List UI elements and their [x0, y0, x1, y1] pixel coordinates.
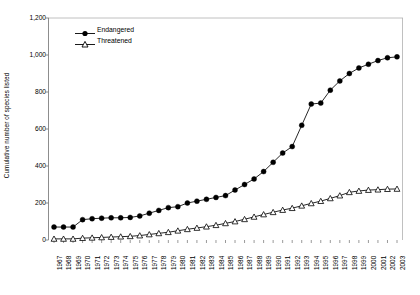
data-point-marker [175, 204, 180, 209]
chart-legend: Endangered Threatened [74, 25, 170, 47]
x-axis-tick-label: 1991 [285, 236, 291, 270]
data-point-marker [261, 169, 266, 174]
x-axis-tick-label: 1977 [152, 236, 158, 270]
data-point-marker [156, 208, 161, 213]
data-point-marker [375, 58, 380, 63]
x-axis-tick-label: 1992 [295, 236, 301, 270]
x-axis-tick-label: 1984 [219, 236, 225, 270]
data-point-marker [242, 182, 247, 187]
data-point-marker [166, 205, 171, 210]
x-axis-tick-label: 1981 [190, 236, 196, 270]
data-point-marker [90, 216, 95, 221]
plot-svg [48, 18, 403, 240]
x-axis-tick-label: 1968 [66, 236, 72, 270]
x-axis-tick-label: 2000 [371, 236, 377, 270]
x-axis-tick-label: 1982 [200, 236, 206, 270]
data-point-marker [137, 213, 142, 218]
data-point-marker [356, 65, 361, 70]
data-point-marker [395, 54, 400, 59]
x-axis-tick-label: 1971 [95, 236, 101, 270]
x-axis-tick-label: 1987 [247, 236, 253, 270]
x-axis-tick-label: 1990 [276, 236, 282, 270]
data-point-marker [366, 62, 371, 67]
data-point-marker [280, 151, 285, 156]
series-line [54, 57, 397, 227]
data-point-marker [271, 160, 276, 165]
legend-item-threatened: Threatened [74, 36, 170, 47]
x-axis-tick-label: 1996 [333, 236, 339, 270]
x-axis-tick-label: 1983 [209, 236, 215, 270]
series-endangered [52, 54, 400, 229]
x-axis-tick-label: 1999 [361, 236, 367, 270]
data-point-marker [347, 71, 352, 76]
data-point-marker [52, 225, 57, 230]
data-point-marker [109, 215, 114, 220]
data-point-marker [71, 225, 76, 230]
x-axis-tick-label: 1995 [323, 236, 329, 270]
x-axis-tick-label: 1975 [133, 236, 139, 270]
data-point-marker [99, 216, 104, 221]
x-axis-tick-label: 1988 [257, 236, 263, 270]
data-point-marker [318, 101, 323, 106]
x-axis-tick-labels: 1967196819691970197119721973197419751976… [48, 242, 403, 295]
legend-label-endangered: Endangered [96, 27, 134, 34]
x-axis-tick-label: 2002 [390, 236, 396, 270]
data-point-marker [204, 197, 209, 202]
x-axis-tick-label: 2003 [400, 236, 406, 270]
data-point-marker [213, 195, 218, 200]
data-point-marker [118, 215, 123, 220]
y-axis-tick-labels: 02004006008001,0001,200 [0, 0, 46, 295]
y-axis-tick-label: 600 [4, 126, 46, 133]
x-axis-tick-label: 1979 [171, 236, 177, 270]
x-axis-tick-label: 1980 [180, 236, 186, 270]
x-axis-tick-label: 1974 [123, 236, 129, 270]
data-point-marker [299, 123, 304, 128]
y-axis-tick-label: 800 [4, 89, 46, 96]
data-point-marker [385, 55, 390, 60]
legend-item-endangered: Endangered [74, 25, 170, 36]
x-axis-tick-label: 2001 [381, 236, 387, 270]
x-axis-tick-label: 1967 [57, 236, 63, 270]
filled-circle-marker-icon [74, 25, 96, 36]
y-axis-tick-label: 1,000 [4, 52, 46, 59]
data-point-marker [128, 215, 133, 220]
x-axis-tick-label: 1969 [76, 236, 82, 270]
data-point-marker [61, 225, 66, 230]
data-point-marker [185, 201, 190, 206]
x-axis-tick-label: 1993 [304, 236, 310, 270]
open-triangle-marker-icon [74, 36, 96, 47]
data-point-marker [233, 188, 238, 193]
data-point-marker [223, 193, 228, 198]
data-point-marker [252, 176, 257, 181]
x-axis-tick-label: 1998 [352, 236, 358, 270]
chart-container: Cumulative number of species listed 0200… [0, 0, 420, 295]
plot-area [48, 18, 403, 240]
x-axis-tick-label: 1994 [314, 236, 320, 270]
x-axis-tick-label: 1997 [342, 236, 348, 270]
data-point-marker [80, 217, 85, 222]
x-axis-tick-label: 1972 [104, 236, 110, 270]
legend-label-threatened: Threatened [96, 38, 132, 45]
x-axis-tick-label: 1985 [228, 236, 234, 270]
data-point-marker [290, 144, 295, 149]
x-axis-tick-label: 1989 [266, 236, 272, 270]
data-point-marker [309, 102, 314, 107]
x-axis-tick-label: 1973 [114, 236, 120, 270]
data-point-marker [337, 78, 342, 83]
data-point-marker [147, 211, 152, 216]
data-point-marker [328, 88, 333, 93]
x-axis-tick-label: 1986 [238, 236, 244, 270]
y-axis-tick-label: 1,200 [4, 15, 46, 22]
data-point-marker [194, 199, 199, 204]
y-axis-tick-label: 200 [4, 200, 46, 207]
y-axis-tick-label: 0 [4, 237, 46, 244]
x-axis-tick-label: 1978 [161, 236, 167, 270]
x-axis-tick-label: 1976 [142, 236, 148, 270]
x-axis-tick-label: 1970 [85, 236, 91, 270]
y-axis-tick-label: 400 [4, 163, 46, 170]
